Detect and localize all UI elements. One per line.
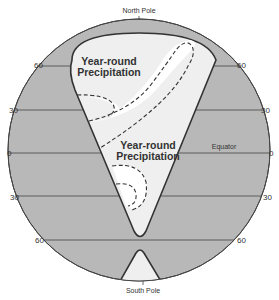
precipitation-globe-diagram: North Pole South Pole Equator 60 60 30 3… bbox=[0, 0, 279, 300]
lat-label-30s-right: 30 bbox=[263, 193, 272, 202]
equator-label: Equator bbox=[212, 143, 237, 151]
north-pole-label: North Pole bbox=[122, 7, 155, 14]
lat-label-30n-right: 30 bbox=[261, 106, 270, 115]
lat-label-eq-left: 0 bbox=[7, 149, 12, 158]
lat-label-60s-left: 60 bbox=[35, 236, 44, 245]
zone-label-south-line2: Precipitation bbox=[116, 150, 180, 162]
lat-label-eq-right: 0 bbox=[269, 149, 274, 158]
south-pole-label: South Pole bbox=[126, 287, 160, 294]
lat-label-60s-right: 60 bbox=[237, 236, 246, 245]
lat-label-30n-left: 30 bbox=[9, 106, 18, 115]
zone-label-north-line2: Precipitation bbox=[77, 66, 141, 78]
lat-label-30s-left: 30 bbox=[10, 193, 19, 202]
lat-label-60n-right: 60 bbox=[237, 61, 246, 70]
lat-label-60n-left: 60 bbox=[34, 61, 43, 70]
